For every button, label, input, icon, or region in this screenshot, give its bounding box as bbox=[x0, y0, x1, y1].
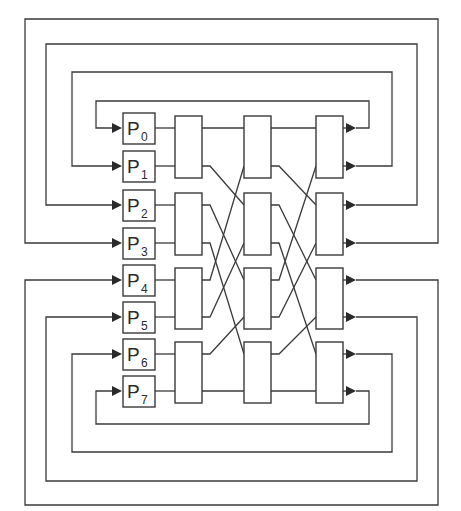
arrow-icon bbox=[346, 161, 356, 171]
switch-stage1-2 bbox=[175, 268, 202, 329]
arrow-icon bbox=[112, 275, 122, 285]
arrow-icon bbox=[346, 312, 356, 322]
processor-index: 5 bbox=[141, 319, 148, 333]
processor-p1: P1 bbox=[123, 151, 155, 182]
feedback-loop-2 bbox=[46, 44, 417, 205]
arrow-icon bbox=[346, 349, 356, 359]
switch-stage1-0 bbox=[175, 116, 202, 178]
processor-p2: P2 bbox=[123, 190, 155, 221]
processor-index: 3 bbox=[141, 245, 148, 259]
switch-stage3-0 bbox=[316, 116, 343, 178]
arrow-icon bbox=[346, 200, 356, 210]
processor-label: P bbox=[127, 233, 140, 254]
processor-label: P bbox=[127, 195, 140, 216]
processor-label: P bbox=[127, 381, 140, 402]
arrow-icon bbox=[346, 123, 356, 133]
switch-stage2-2 bbox=[244, 268, 271, 329]
processor-index: 7 bbox=[141, 393, 148, 407]
switch-boxes bbox=[175, 116, 343, 403]
processor-label: P bbox=[127, 270, 140, 291]
switch-stage2-1 bbox=[244, 193, 271, 255]
processor-p7: P7 bbox=[123, 376, 155, 407]
processor-index: 2 bbox=[141, 207, 148, 221]
processor-index: 1 bbox=[141, 168, 148, 182]
network-wires bbox=[25, 19, 438, 505]
processor-p5: P5 bbox=[123, 302, 155, 333]
processor-p3: P3 bbox=[123, 228, 155, 259]
processor-p0: P0 bbox=[123, 113, 155, 144]
switch-stage1-1 bbox=[175, 193, 202, 255]
arrow-icon bbox=[112, 386, 122, 396]
arrow-icon bbox=[346, 386, 356, 396]
switch-stage2-0 bbox=[244, 116, 271, 178]
processor-p6: P6 bbox=[123, 339, 155, 370]
processor-boxes: P0P1P2P3P4P5P6P7 bbox=[123, 113, 155, 407]
processor-index: 6 bbox=[141, 356, 148, 370]
arrow-icon bbox=[112, 312, 122, 322]
feedback-loop-6 bbox=[72, 354, 392, 452]
processor-label: P bbox=[127, 118, 140, 139]
omega-network-diagram: P0P1P2P3P4P5P6P7 bbox=[0, 0, 461, 511]
switch-stage1-3 bbox=[175, 342, 202, 403]
feedback-loop-5 bbox=[46, 317, 417, 481]
arrow-icon bbox=[346, 238, 356, 248]
processor-p4: P4 bbox=[123, 265, 155, 296]
processor-label: P bbox=[127, 307, 140, 328]
processor-label: P bbox=[127, 156, 140, 177]
feedback-loop-1 bbox=[72, 72, 392, 166]
processor-index: 4 bbox=[141, 282, 148, 296]
arrow-icon bbox=[112, 200, 122, 210]
arrow-icon bbox=[346, 275, 356, 285]
processor-label: P bbox=[127, 344, 140, 365]
arrow-icon bbox=[112, 349, 122, 359]
switch-stage3-2 bbox=[316, 268, 343, 329]
arrow-icon bbox=[112, 161, 122, 171]
arrow-icon bbox=[112, 123, 122, 133]
switch-stage2-3 bbox=[244, 342, 271, 403]
switch-stage3-1 bbox=[316, 193, 343, 255]
processor-index: 0 bbox=[141, 130, 148, 144]
arrow-icon bbox=[112, 238, 122, 248]
switch-stage3-3 bbox=[316, 342, 343, 403]
